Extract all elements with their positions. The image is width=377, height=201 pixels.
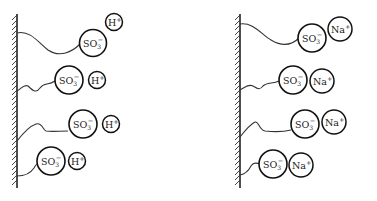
sulfonate-group-2: SO3− Na+ (240, 66, 334, 94)
sulfonate-group-2: SO3− H+ (17, 66, 106, 94)
sulfonate-group-4: SO3− Na+ (240, 150, 313, 178)
sulfonate-group-4: SO3− H+ (17, 147, 86, 176)
panel-acid-form: SO3− H+ SO3− H+ SO3− H+ SO3− H+ (12, 14, 123, 189)
sulfonate-label: SO3− (283, 73, 303, 87)
sulfonate-label: SO3− (263, 157, 283, 171)
surface-wall (12, 14, 17, 188)
sulfonate-label: SO3− (41, 154, 61, 168)
sulfonate-label: SO3− (59, 73, 79, 87)
sulfonate-label: SO3− (302, 31, 322, 45)
ion-exchange-diagram: SO3− H+ SO3− H+ SO3− H+ SO3− H+ (0, 0, 377, 201)
sulfonate-group-3: SO3− H+ (17, 110, 120, 141)
sulfonate-label: SO3− (83, 36, 103, 50)
sulfonate-group-3: SO3− Na+ (240, 110, 346, 138)
sulfonate-group-1: SO3− H+ (17, 14, 123, 57)
panel-sodium-form: SO3− Na+ SO3− Na+ SO3− Na+ SO3− Na+ (235, 14, 352, 188)
sulfonate-group-1: SO3− Na+ (240, 17, 352, 52)
sulfonate-label: SO3− (295, 117, 315, 131)
sulfonate-label: SO3− (73, 117, 93, 131)
surface-wall (235, 14, 240, 188)
